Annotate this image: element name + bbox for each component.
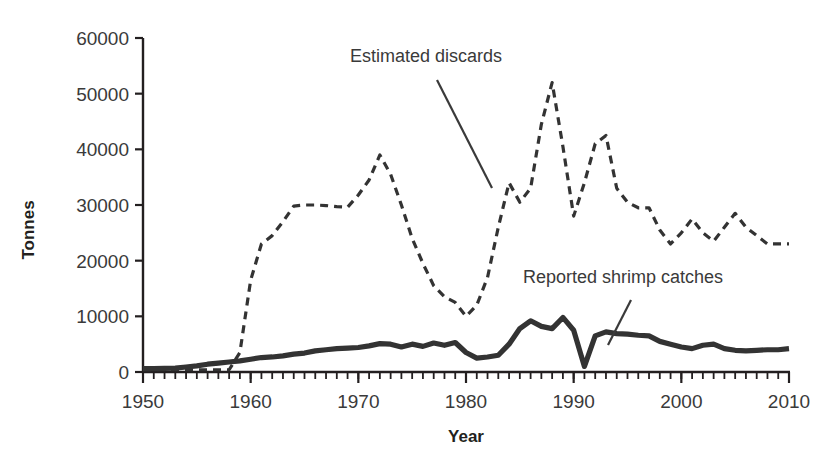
y-tick-label: 60000 bbox=[76, 28, 129, 49]
axes-group bbox=[143, 38, 790, 372]
annotation-label: Estimated discards bbox=[350, 46, 502, 66]
y-tick-label: 40000 bbox=[76, 139, 129, 160]
annotation-label: Reported shrimp catches bbox=[523, 267, 723, 287]
annotation-leader-line bbox=[437, 80, 492, 188]
annotations-group: Estimated discardsReported shrimp catche… bbox=[350, 46, 723, 345]
data-series-group bbox=[143, 83, 789, 370]
x-tick-label: 1980 bbox=[445, 391, 487, 412]
x-tick-label: 1950 bbox=[122, 391, 164, 412]
series-line-estimated-discards bbox=[143, 83, 789, 370]
x-tick-label: 2010 bbox=[768, 391, 810, 412]
y-tick-label: 0 bbox=[118, 362, 129, 383]
y-tick-label: 10000 bbox=[76, 306, 129, 327]
x-axis-title: Year bbox=[448, 427, 484, 446]
x-tick-label: 2000 bbox=[660, 391, 702, 412]
y-tick-label: 50000 bbox=[76, 84, 129, 105]
y-tick-labels-group: 0100002000030000400005000060000 bbox=[76, 28, 129, 383]
x-tick-label: 1970 bbox=[337, 391, 379, 412]
x-tick-label: 1960 bbox=[230, 391, 272, 412]
y-tick-label: 30000 bbox=[76, 195, 129, 216]
x-tick-labels-group: 1950196019701980199020002010 bbox=[122, 391, 810, 412]
x-tick-label: 1990 bbox=[553, 391, 595, 412]
y-axis-title: Tonnes bbox=[19, 200, 38, 259]
chart-svg: 0100002000030000400005000060000 19501960… bbox=[0, 0, 825, 473]
chart-container: 0100002000030000400005000060000 19501960… bbox=[0, 0, 825, 473]
annotation-leader-line bbox=[608, 300, 631, 345]
y-tick-label: 20000 bbox=[76, 251, 129, 272]
